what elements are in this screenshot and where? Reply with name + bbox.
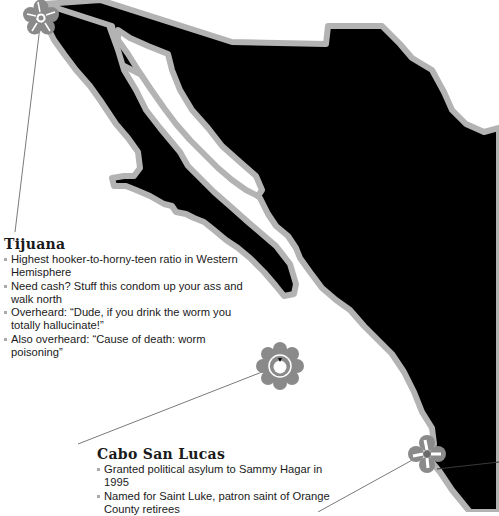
callout-bullet: Overheard: “Dude, if you drink the worm … <box>4 306 244 333</box>
callout-bullet: Granted political asylum to Sammy Hagar … <box>97 463 337 490</box>
callout-bullets: Granted political asylum to Sammy Hagar … <box>97 463 337 516</box>
callout-title: Cabo San Lucas <box>97 446 337 462</box>
scalloped-flower-icon[interactable] <box>256 342 304 390</box>
callout-bullet: Need cash? Stuff this condom up your ass… <box>4 280 244 307</box>
tijuana-callout: Tijuana Highest hooker-to-horny-teen rat… <box>4 236 244 359</box>
callout-bullet: Named for Saint Luke, patron saint of Or… <box>97 490 337 516</box>
callout-bullets: Highest hooker-to-horny-teen ratio in We… <box>4 253 244 359</box>
callout-bullet: Highest hooker-to-horny-teen ratio in We… <box>4 253 244 280</box>
callout-title: Tijuana <box>4 236 244 252</box>
callout-bullet: Also overheard: “Cause of death: worm po… <box>4 333 244 360</box>
cabo-san-lucas-callout: Cabo San Lucas Granted political asylum … <box>97 446 337 516</box>
cabo-leader-line <box>78 372 262 444</box>
tijuana-leader-line <box>15 18 41 232</box>
